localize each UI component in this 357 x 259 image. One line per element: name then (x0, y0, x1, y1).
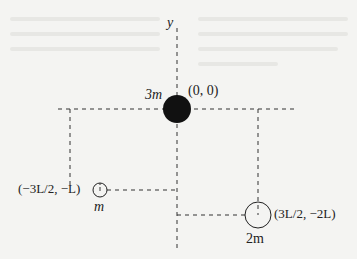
mass-2m-label: 2m (246, 232, 264, 246)
mass-3m-circle (163, 95, 191, 123)
y-axis-label: y (167, 16, 173, 30)
mass-3m-label: 3m (145, 88, 162, 102)
mass-m-label: m (94, 200, 104, 214)
mass-3m-value: 3m (145, 87, 162, 102)
origin-coord-label: (0, 0) (188, 84, 218, 98)
mass-2m-coord-label: (3L/2, −2L) (274, 207, 335, 220)
mass-m-coord-label: (−3L/2, −L) (18, 182, 80, 195)
